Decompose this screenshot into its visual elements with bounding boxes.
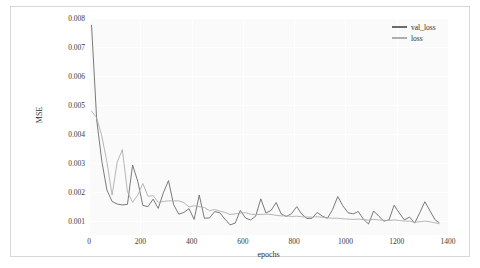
y-tick-label: 0.004 <box>68 129 85 138</box>
x-tick-label: 600 <box>237 237 248 246</box>
legend-line-swatch <box>392 37 407 38</box>
x-tick-label: 0 <box>87 237 91 246</box>
series-line-loss <box>92 111 439 224</box>
x-tick-label: 1400 <box>441 237 456 246</box>
series-line-val_loss <box>92 25 439 225</box>
figure-border: 0.0010.0020.0030.0040.0050.0060.0070.008… <box>10 6 470 257</box>
legend-entry-loss: loss <box>392 33 450 43</box>
x-axis-tick-labels: 0200400600800100012001400 <box>89 237 448 251</box>
legend-label: val_loss <box>411 23 436 32</box>
y-tick-label: 0.006 <box>68 71 85 80</box>
y-tick-label: 0.002 <box>68 187 85 196</box>
legend-label: loss <box>411 34 423 43</box>
plot-area <box>89 18 448 235</box>
x-tick-label: 200 <box>135 237 146 246</box>
chart-figure: 0.0010.0020.0030.0040.0050.0060.0070.008… <box>0 0 480 268</box>
x-tick-label: 800 <box>289 237 300 246</box>
legend-line-swatch <box>392 26 407 27</box>
x-axis-title: epochs <box>89 250 448 259</box>
legend-entry-val_loss: val_loss <box>392 22 450 32</box>
y-tick-label: 0.007 <box>68 42 85 51</box>
chart-legend: val_lossloss <box>392 22 450 44</box>
y-axis-title: MSE <box>35 107 44 123</box>
y-tick-label: 0.008 <box>68 14 85 23</box>
x-tick-label: 1200 <box>389 237 404 246</box>
x-tick-label: 400 <box>186 237 197 246</box>
y-tick-label: 0.005 <box>68 100 85 109</box>
y-tick-label: 0.001 <box>68 216 85 225</box>
y-axis-tick-labels: 0.0010.0020.0030.0040.0050.0060.0070.008 <box>41 18 85 235</box>
y-tick-label: 0.003 <box>68 158 85 167</box>
series-lines <box>89 18 448 235</box>
x-tick-label: 1000 <box>338 237 353 246</box>
